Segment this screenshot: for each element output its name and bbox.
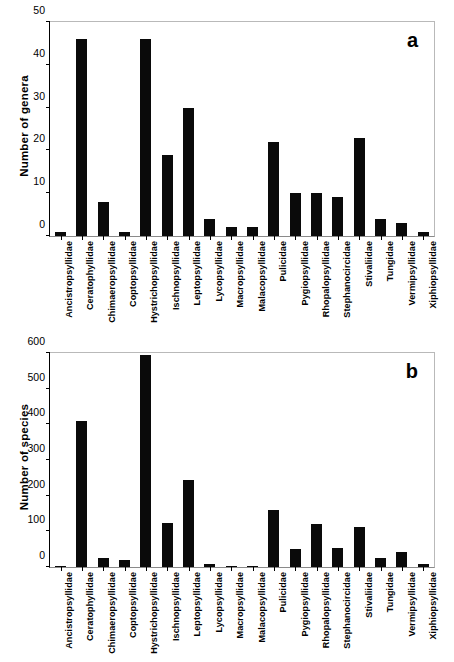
bar xyxy=(375,219,386,236)
bar-slot xyxy=(199,22,220,236)
panel-a-y-tick-label: 30 xyxy=(15,90,45,102)
bar xyxy=(290,193,301,236)
x-label-slot: Leptopsyllidae xyxy=(178,241,199,327)
x-label-slot: Lycopsyllidae xyxy=(199,572,220,658)
x-tick-mark xyxy=(295,236,296,240)
figure-flea-family-diversity: Number of genera a 01020304050 Ancistrop… xyxy=(0,0,454,662)
bar xyxy=(247,227,258,236)
panel-b-y-tick-label: 300 xyxy=(15,442,45,454)
x-tick-mark xyxy=(189,567,190,571)
x-label-slot: Ancistropsyllidae xyxy=(49,241,70,327)
bar xyxy=(375,558,386,567)
bar-slot xyxy=(199,353,220,567)
bar-slot xyxy=(370,22,391,236)
x-tick-mark xyxy=(359,567,360,571)
panel-a-y-tick-label: 0 xyxy=(15,218,45,230)
x-label-slot: Chimaeropsyllidae xyxy=(92,572,113,658)
panel-a-y-tick-mark xyxy=(46,64,50,65)
panel-b-y-tick-label: 100 xyxy=(15,513,45,525)
x-label-slot: Ancistropsyllidae xyxy=(49,572,70,658)
x-tick-mark xyxy=(274,567,275,571)
panel-a-letter: a xyxy=(407,30,418,50)
bar-slot xyxy=(71,22,92,236)
bar xyxy=(183,108,194,236)
bar xyxy=(76,421,87,567)
panel-b-plot-area: b 0100200300400500600 xyxy=(49,352,435,568)
x-label-slot: Ceratophyllidae xyxy=(70,572,91,658)
panel-b-y-tick-mark xyxy=(46,495,50,496)
bar-slot xyxy=(306,22,327,236)
x-tick-mark xyxy=(82,567,83,571)
x-tick-mark xyxy=(338,236,339,240)
bar-slot xyxy=(157,353,178,567)
bar xyxy=(268,142,279,236)
x-label-slot: Hystrichopsyllidae xyxy=(135,572,156,658)
bar-slot xyxy=(349,22,370,236)
bar-slot xyxy=(221,22,242,236)
bar xyxy=(204,219,215,236)
x-tick-mark xyxy=(381,567,382,571)
panel-b-letter: b xyxy=(406,361,418,381)
panel-b-x-axis-labels: AncistropsyllidaeCeratophyllidaeChimaero… xyxy=(49,572,435,658)
x-tick-mark xyxy=(253,567,254,571)
bar xyxy=(162,155,173,236)
x-label-slot: Xiphiopsyllidae xyxy=(413,572,434,658)
bar-slot xyxy=(114,353,135,567)
bar-slot xyxy=(178,22,199,236)
x-label-slot: Macropsyllidae xyxy=(221,572,242,658)
x-label-slot: Chimaeropsyllidae xyxy=(92,241,113,327)
bar xyxy=(311,524,322,568)
bar-slot xyxy=(93,353,114,567)
panel-a-y-tick-mark xyxy=(46,235,50,236)
x-tick-mark xyxy=(423,236,424,240)
x-tick-mark xyxy=(274,236,275,240)
panel-a-y-tick-label: 40 xyxy=(15,47,45,59)
bar-slot xyxy=(327,353,348,567)
panel-b-y-tick-mark xyxy=(46,388,50,389)
x-tick-mark xyxy=(402,567,403,571)
x-tick-mark xyxy=(253,236,254,240)
bar xyxy=(396,223,407,236)
bar-slot xyxy=(413,22,434,236)
x-tick-mark xyxy=(359,236,360,240)
panel-a-x-axis-labels: AncistropsyllidaeCeratophyllidaeChimaero… xyxy=(49,241,435,327)
x-tick-mark xyxy=(423,567,424,571)
x-tick-mark xyxy=(167,236,168,240)
x-tick-mark xyxy=(82,236,83,240)
bar-slot xyxy=(93,22,114,236)
panel-b: Number of species b 0100200300400500600 … xyxy=(0,331,454,662)
x-label-slot: Rhopalopsyllidae xyxy=(306,241,327,327)
panel-a-bar-group xyxy=(50,22,434,236)
bar-slot xyxy=(50,353,71,567)
x-label-slot: Hystrichopsyllidae xyxy=(135,241,156,327)
x-tick-mark xyxy=(189,236,190,240)
panel-b-y-tick-mark xyxy=(46,352,50,353)
panel-a-y-tick-mark xyxy=(46,21,50,22)
x-label-slot: Stephanocircidae xyxy=(328,572,349,658)
x-tick-mark xyxy=(125,567,126,571)
x-label-slot: Tungidae xyxy=(371,572,392,658)
bar xyxy=(226,227,237,236)
x-label-slot: Macropsyllidae xyxy=(221,241,242,327)
x-label-slot: Xiphiopsyllidae xyxy=(413,241,434,327)
x-tick-mark xyxy=(167,567,168,571)
x-axis-category-label: Xiphiopsyllidae xyxy=(428,241,438,309)
x-label-slot: Stivaliidae xyxy=(349,241,370,327)
x-tick-mark xyxy=(61,567,62,571)
bar-slot xyxy=(71,353,92,567)
panel-b-y-tick-mark xyxy=(46,459,50,460)
bar xyxy=(98,202,109,236)
panel-a-y-tick-mark xyxy=(46,149,50,150)
x-label-slot: Pulicidae xyxy=(263,241,284,327)
panel-a-y-tick-label: 10 xyxy=(15,175,45,187)
x-tick-mark xyxy=(231,236,232,240)
bar-slot xyxy=(391,22,412,236)
x-label-slot: Leptopsyllidae xyxy=(178,572,199,658)
x-label-slot: Vermipsyllidae xyxy=(392,241,413,327)
x-tick-mark xyxy=(61,236,62,240)
panel-b-bar-group xyxy=(50,353,434,567)
bar-slot xyxy=(285,22,306,236)
x-tick-mark xyxy=(231,567,232,571)
x-tick-mark xyxy=(317,567,318,571)
panel-a-plot-area: a 01020304050 xyxy=(49,21,435,237)
